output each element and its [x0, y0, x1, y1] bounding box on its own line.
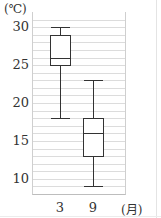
- gridline: [33, 141, 125, 142]
- whisker-cap-max: [51, 27, 70, 28]
- x-tick-label: 3: [50, 200, 70, 215]
- gridline: [33, 164, 125, 165]
- y-tick-label: 10: [0, 172, 29, 186]
- x-tick-label: 9: [83, 200, 103, 215]
- median-line: [50, 58, 71, 59]
- whisker-cap-min: [84, 186, 103, 187]
- gridline: [33, 35, 125, 36]
- y-axis-unit-label: (℃): [4, 2, 27, 16]
- x-axis-unit-label: (月): [121, 200, 142, 217]
- gridline: [33, 179, 125, 180]
- box-iqr: [50, 35, 71, 66]
- gridline: [33, 80, 125, 81]
- gridline: [33, 186, 125, 187]
- gridline: [33, 42, 125, 43]
- gridline: [33, 156, 125, 157]
- y-tick-label: 15: [0, 134, 29, 148]
- gridline: [33, 88, 125, 89]
- gridline: [33, 103, 125, 104]
- gridline: [33, 27, 125, 28]
- gridline: [33, 171, 125, 172]
- gridline: [33, 50, 125, 51]
- median-line: [83, 133, 104, 134]
- gridline: [33, 118, 125, 119]
- y-tick-label: 20: [0, 96, 29, 110]
- gridline: [33, 149, 125, 150]
- chart-frame-right: [156, 0, 157, 218]
- y-tick-label: 30: [0, 20, 29, 34]
- gridline: [33, 73, 125, 74]
- gridline: [33, 65, 125, 66]
- gridline: [33, 20, 125, 21]
- y-tick-label: 25: [0, 58, 29, 72]
- gridline: [33, 111, 125, 112]
- gridline: [33, 95, 125, 96]
- plot-area: [32, 12, 126, 195]
- gridline: [33, 126, 125, 127]
- gridline: [33, 58, 125, 59]
- box-iqr: [83, 118, 104, 157]
- whisker-cap-max: [84, 80, 103, 81]
- gridline: [33, 133, 125, 134]
- whisker-cap-min: [51, 118, 70, 119]
